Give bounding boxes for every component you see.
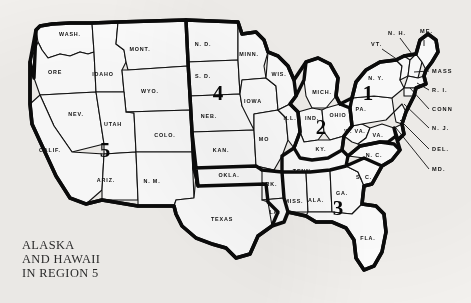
- state-label: VA.: [372, 132, 383, 138]
- state-label: ORE: [48, 69, 62, 75]
- state-label: IOWA: [244, 98, 262, 104]
- state-label: W. VA.: [344, 128, 365, 134]
- state-label: ALA.: [308, 197, 324, 203]
- state-label: IDAHO: [92, 71, 114, 77]
- state-label: WASH.: [59, 31, 81, 37]
- callout-label: N. J.: [432, 125, 449, 131]
- state-label: FLA.: [360, 235, 375, 241]
- state-label: MO: [259, 136, 269, 142]
- state-label: NEB.: [201, 113, 217, 119]
- region-number-4: 4: [213, 81, 224, 105]
- state-label: TENN.: [293, 168, 313, 174]
- callout-label: DEL.: [432, 146, 449, 152]
- callout-label: MASS: [432, 68, 453, 74]
- callout-leader-line: [382, 49, 398, 60]
- state-label: CALIF.: [39, 147, 61, 153]
- state-label: ARK.: [261, 181, 278, 187]
- state-shapes: [30, 20, 438, 270]
- us-federal-regions-map: N. H.VT.ME.MASSR. I.CONNN. J.DEL.MD. WAS…: [0, 0, 471, 303]
- state-shape-colo: [126, 110, 192, 152]
- state-label: N. D.: [195, 41, 212, 47]
- state-label: S. D.: [195, 73, 211, 79]
- state-label: ILL.: [284, 115, 297, 121]
- alaska-hawaii-caption: ALASKA AND HAWAII IN REGION 5: [22, 238, 100, 281]
- callout-label: ME.: [420, 28, 433, 34]
- state-label: NEV.: [68, 111, 84, 117]
- state-label: MINN.: [239, 51, 259, 57]
- callout-label: VT.: [371, 41, 382, 47]
- state-label: WIS.: [271, 71, 286, 77]
- state-label: PA.: [355, 106, 366, 112]
- state-label: MICH.: [312, 89, 332, 95]
- state-label: N. C.: [366, 152, 383, 158]
- region-number-1: 1: [363, 81, 374, 105]
- state-label: TEXAS: [211, 216, 233, 222]
- state-label: OKLA.: [218, 172, 239, 178]
- state-label: S. C.: [356, 174, 372, 180]
- state-label: COLO.: [154, 132, 175, 138]
- state-label: KAN.: [213, 147, 230, 153]
- region-number-3: 3: [333, 196, 344, 220]
- callout-label: R. I.: [432, 87, 448, 93]
- callout-label: MD.: [432, 166, 446, 172]
- region-number-5: 5: [100, 138, 111, 162]
- callout-label: CONN: [432, 106, 453, 112]
- callout-label: N. H.: [388, 30, 406, 36]
- state-label: ARIZ.: [97, 177, 115, 183]
- state-label: OHIO: [329, 112, 346, 118]
- state-label: LA.: [269, 209, 280, 215]
- state-label: MONT.: [129, 46, 150, 52]
- state-shape-mont: [116, 20, 188, 70]
- region-number-2: 2: [316, 115, 327, 139]
- callout-leader-line: [400, 38, 412, 54]
- state-label: MISS.: [285, 198, 304, 204]
- state-label: UTAH: [104, 121, 122, 127]
- state-label: KY.: [316, 146, 327, 152]
- state-label: N. M.: [143, 178, 160, 184]
- callout-leader-line: [404, 104, 429, 128]
- state-shape-ala: [306, 170, 332, 212]
- state-label: WYO.: [141, 88, 159, 94]
